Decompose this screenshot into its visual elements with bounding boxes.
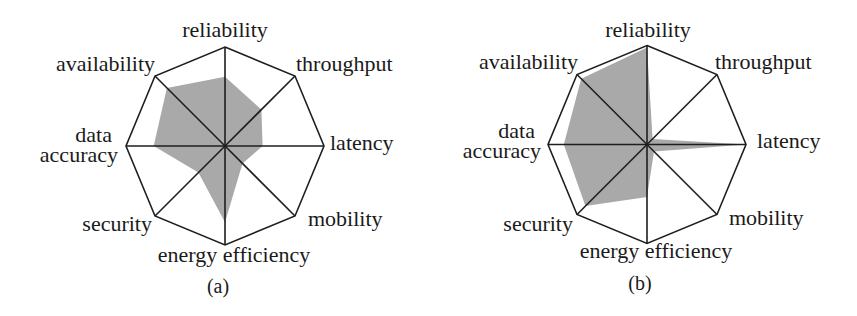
axis-label-reliability: reliability — [605, 17, 691, 42]
spokes-b — [548, 46, 746, 244]
axis-label-energy-efficiency: energy efficiency — [158, 242, 311, 267]
radar-chart-b: reliabilitythroughputlatencymobilityener… — [463, 17, 821, 295]
spokes-a — [126, 47, 324, 245]
spoke-throughput — [647, 75, 717, 145]
axis-label-reliability: reliability — [182, 17, 268, 42]
radar-figure: reliabilitythroughputlatencymobilityener… — [0, 0, 857, 316]
axis-label-mobility: mobility — [729, 205, 804, 230]
axis-label-security: security — [503, 211, 573, 236]
axis-label-latency: latency — [330, 130, 394, 155]
caption-b: (b) — [628, 272, 651, 295]
radar-chart-a: reliabilitythroughputlatencymobilityener… — [40, 17, 394, 298]
axis-label-availability: availability — [479, 49, 578, 74]
caption-a: (a) — [207, 275, 229, 298]
spoke-mobility — [647, 145, 717, 215]
axis-label-accuracy: accuracy — [463, 138, 541, 163]
axis-label-accuracy: accuracy — [40, 142, 118, 167]
axis-label-security: security — [82, 211, 152, 236]
axis-label-availability: availability — [56, 51, 155, 76]
axis-label-energy-efficiency: energy efficiency — [580, 238, 733, 263]
axis-label-mobility: mobility — [308, 206, 383, 231]
axis-label-latency: latency — [757, 128, 821, 153]
axis-label-throughput: throughput — [296, 51, 393, 76]
axis-label-throughput: throughput — [715, 49, 812, 74]
